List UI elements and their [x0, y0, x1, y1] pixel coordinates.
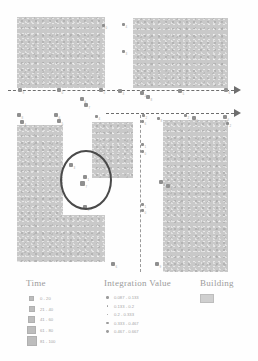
legend-item-time: 41 - 60: [26, 315, 55, 324]
map-point-label: 4: [164, 184, 166, 187]
legend-group-time: Time 0 - 2021 - 4041 - 6061 - 8081 - 100: [26, 278, 55, 348]
map-point-marker[interactable]: [118, 89, 122, 93]
map-point-marker[interactable]: [84, 103, 88, 107]
map-point-label: 8: [161, 120, 163, 123]
building-bottom-left-arm-foot[interactable]: [17, 215, 105, 262]
map-point-label: 6: [229, 92, 231, 95]
map-point-label: 2: [188, 117, 190, 120]
building-swatch: [200, 294, 214, 303]
legend-item-time: 81 - 100: [26, 336, 55, 346]
legend-item-time: 21 - 40: [26, 305, 55, 314]
legend-item-time: 0 - 20: [26, 294, 55, 303]
dashed-path-vertical: [140, 115, 141, 272]
map-point-label: 3: [123, 93, 125, 96]
path-arrow-upper: [234, 86, 241, 94]
legend-item-integration: 0.133 - 0.2: [104, 303, 171, 310]
map-point-label: 1: [171, 188, 173, 191]
legend-swatch-dot: [104, 322, 111, 324]
path-arrow-lower: [234, 109, 241, 117]
legend-item-integration: 0.2 - 0.333: [104, 311, 171, 318]
map-figure: 0439006732856846542682562104110317569 Ti…: [0, 0, 258, 361]
map-point-label: 9: [160, 266, 162, 269]
map-point-label: 4: [25, 124, 27, 127]
legend-label-integration: 0.133 - 0.2: [114, 304, 134, 309]
map-point-marker[interactable]: [99, 88, 103, 92]
map-point-marker[interactable]: [224, 88, 228, 92]
map-point-label: 0: [106, 27, 108, 30]
building-top-left[interactable]: [17, 17, 105, 88]
legend-group-building: Building: [200, 278, 234, 303]
map-point-label: 4: [126, 26, 128, 29]
legend-items-time: 0 - 2021 - 4041 - 6061 - 8081 - 100: [26, 294, 55, 346]
legend-title-time: Time: [26, 278, 55, 288]
legend-item-integration: 0.087 - 0.133: [104, 294, 171, 301]
legend-title-building: Building: [200, 278, 234, 288]
map-point-label: 0: [145, 153, 147, 156]
map-point-label: 8: [151, 99, 153, 102]
map-point-label: 2: [230, 125, 232, 128]
map-point-marker[interactable]: [140, 91, 144, 95]
map-point-marker[interactable]: [20, 120, 24, 124]
legend-item-integration: 0.467 - 0.667: [104, 328, 171, 335]
legend-swatch-dot: [104, 330, 111, 333]
legend-label-integration: 0.467 - 0.667: [114, 329, 139, 334]
map-point-label: 1: [145, 206, 147, 209]
legend-group-integration: Integration Value 0.087 - 0.1330.133 - 0…: [104, 278, 171, 337]
map-point-label: 4: [99, 118, 101, 121]
legend-title-integration: Integration Value: [104, 278, 171, 288]
map-point-marker[interactable]: [155, 262, 159, 266]
legend-label-time: 0 - 20: [40, 296, 51, 301]
legend-label-integration: 0.087 - 0.133: [114, 295, 139, 300]
legend-label-integration: 0.2 - 0.333: [114, 312, 134, 317]
map-point-marker[interactable]: [223, 115, 227, 119]
legend-swatch-square: [26, 336, 37, 346]
map-point-marker[interactable]: [146, 95, 150, 99]
legend-label-time: 61 - 80: [40, 328, 53, 333]
map-point-marker[interactable]: [178, 89, 182, 93]
map-point-label: 0: [104, 92, 106, 95]
map-point-label: 5: [197, 120, 199, 123]
map-point-label: 9: [23, 92, 25, 95]
legend-item-integration: 0.333 - 0.467: [104, 320, 171, 327]
map-point-marker[interactable]: [111, 262, 115, 266]
legend-swatch-dot: [104, 296, 111, 298]
map-point-marker[interactable]: [54, 113, 58, 117]
building-bottom-right[interactable]: [163, 120, 228, 272]
legend-swatch-dot: [104, 305, 111, 306]
legend-label-time: 81 - 100: [40, 339, 55, 344]
map-point-label: 0: [62, 92, 64, 95]
legend-label-time: 21 - 40: [40, 307, 53, 312]
map-point-label: 3: [126, 53, 128, 56]
highlight-ellipse: [60, 150, 112, 210]
map-point-marker[interactable]: [17, 113, 21, 117]
legend-swatch-square: [26, 326, 37, 335]
map-point-marker[interactable]: [57, 119, 61, 123]
legend-item-time: 61 - 80: [26, 326, 55, 335]
map-point-marker[interactable]: [57, 88, 61, 92]
legend-swatch-square: [26, 316, 37, 323]
legend-swatch-dot: [104, 314, 111, 316]
legend: Time 0 - 2021 - 4041 - 6061 - 8081 - 100…: [0, 278, 258, 361]
legend-swatch-square: [26, 296, 37, 301]
map-point-label: 5: [183, 93, 185, 96]
legend-swatch-square: [26, 306, 37, 312]
dashed-path-lower: [106, 113, 234, 114]
map-point-label: 6: [116, 266, 118, 269]
legend-label-time: 41 - 60: [40, 317, 53, 322]
map-point-label: 2: [146, 117, 148, 120]
map-point-marker[interactable]: [18, 88, 22, 92]
map-point-marker[interactable]: [166, 184, 170, 188]
map-point-label: 0: [145, 212, 147, 215]
map-point-label: 5: [62, 123, 64, 126]
map-point-label: 6: [145, 123, 147, 126]
map-point-marker[interactable]: [80, 97, 84, 101]
map-point-label: 1: [145, 146, 147, 149]
map-point-marker[interactable]: [159, 180, 163, 184]
legend-label-integration: 0.333 - 0.467: [114, 321, 139, 326]
map-canvas[interactable]: 0439006732856846542682562104110317569: [0, 0, 258, 278]
map-point-marker[interactable]: [192, 116, 196, 120]
building-top-right[interactable]: [133, 18, 228, 88]
legend-items-integration: 0.087 - 0.1330.133 - 0.20.2 - 0.3330.333…: [104, 294, 171, 335]
map-point-label: 7: [89, 107, 91, 110]
